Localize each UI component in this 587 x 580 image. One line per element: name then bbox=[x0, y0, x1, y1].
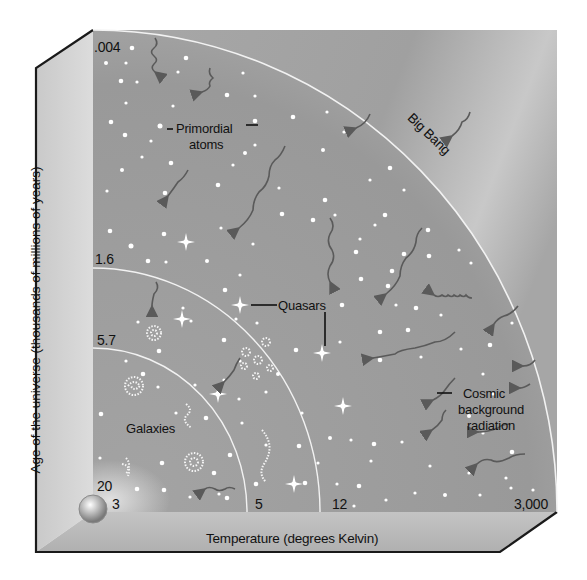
x-axis-label: Temperature (degrees Kelvin) bbox=[206, 531, 378, 546]
background-label: background bbox=[446, 402, 536, 417]
side-wall bbox=[36, 30, 93, 552]
cosmology-diagram: Age of the universe (thousands of millio… bbox=[0, 0, 587, 580]
x-tick-12: 12 bbox=[332, 497, 347, 512]
y-axis-label: Age of the universe (thousands of millio… bbox=[28, 130, 43, 510]
quasars-label: Quasars bbox=[278, 298, 326, 313]
y-tick-1-6: 1.6 bbox=[95, 252, 114, 267]
x-tick-3: 3 bbox=[112, 497, 120, 512]
y-tick-0-004: .004 bbox=[94, 40, 120, 55]
earth-icon bbox=[79, 495, 107, 523]
y-tick-20: 20 bbox=[97, 479, 112, 494]
atoms-label: atoms bbox=[189, 137, 223, 152]
primordial-label: Primordial bbox=[176, 121, 233, 136]
diagram-graphic bbox=[0, 0, 587, 580]
cosmic-label: Cosmic bbox=[449, 386, 519, 401]
radiation-label: radiation bbox=[446, 418, 536, 433]
y-tick-5-7: 5.7 bbox=[97, 333, 116, 348]
x-tick-3000: 3,000 bbox=[514, 497, 548, 512]
galaxies-label: Galaxies bbox=[126, 421, 175, 436]
x-tick-5: 5 bbox=[255, 497, 263, 512]
